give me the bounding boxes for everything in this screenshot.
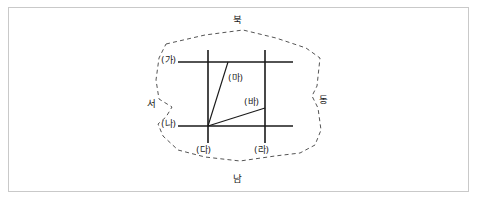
line-label-ma: (마) (228, 74, 243, 83)
figure-page: 북 남 서 동 (가) (나) (다) (라) (마) (바) (0, 0, 479, 204)
line-ma-diagonal (208, 62, 228, 126)
line-label-ga: (가) (161, 56, 176, 65)
line-label-ra: (라) (254, 146, 269, 155)
line-label-da: (다) (196, 146, 211, 155)
line-ba-diagonal (208, 108, 265, 126)
direction-label-west: 서 (147, 99, 156, 109)
region-boundary-dashed (156, 30, 321, 161)
direction-label-south: 남 (233, 174, 242, 184)
direction-label-north: 북 (233, 15, 242, 25)
line-label-na: (나) (161, 120, 176, 129)
line-label-ba: (바) (244, 98, 259, 107)
direction-label-east: 동 (319, 95, 328, 105)
